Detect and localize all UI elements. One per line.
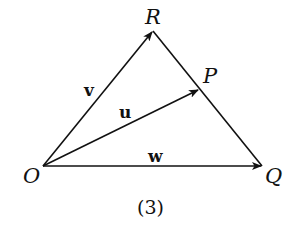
vector-v-arrow <box>43 32 152 166</box>
vector-label-v: v <box>83 80 95 100</box>
point-label-q: Q <box>265 164 282 188</box>
vector-label-u: u <box>119 102 131 122</box>
figure-caption: (3) <box>137 196 164 218</box>
vector-triangle-diagram: R P O Q v u w (3) <box>0 0 300 230</box>
point-label-r: R <box>144 5 161 29</box>
point-label-o: O <box>23 164 40 188</box>
vector-label-w: w <box>147 146 163 166</box>
segment-rq <box>153 31 262 166</box>
point-label-p: P <box>202 64 218 88</box>
